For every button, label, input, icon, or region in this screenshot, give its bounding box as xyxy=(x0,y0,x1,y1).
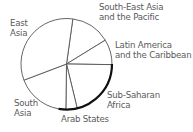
label-arab-states: Arab States xyxy=(61,114,109,124)
label-east-asia: EastAsia xyxy=(10,18,28,38)
label-sub-saharan-africa: Sub-SaharanAfrica xyxy=(107,90,160,110)
label-south-east-asia-pacific: South-East Asiaand the Pacific xyxy=(99,2,163,22)
label-latin-america-caribbean: Latin Americaand the Caribbean xyxy=(115,40,191,60)
label-south-asia: SouthAsia xyxy=(14,98,38,118)
